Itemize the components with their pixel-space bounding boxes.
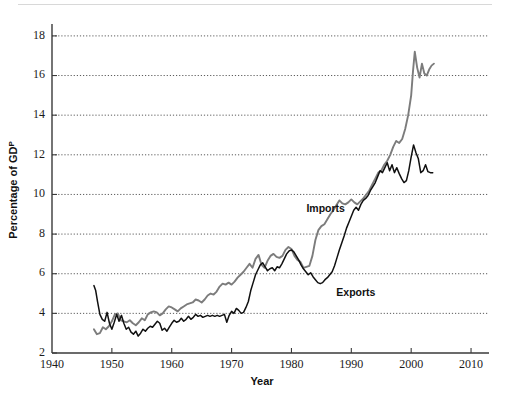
x-tick-label-2010: 2010	[459, 357, 483, 371]
annotation-exports: Exports	[336, 286, 375, 298]
series-line-exports	[94, 145, 433, 336]
series-line-imports	[94, 52, 434, 334]
series-annotations: ImportsExports	[306, 202, 375, 297]
y-tick-group: 24681012141618	[33, 28, 57, 359]
x-tick-label-2000: 2000	[399, 357, 423, 371]
y-axis-title-superscript: P	[7, 141, 16, 147]
trade-percentage-gdp-chart: 24681012141618 1940195019601970198019902…	[0, 0, 510, 395]
x-tick-label-1940: 1940	[40, 357, 64, 371]
y-axis-title: Percentage of GDP	[7, 141, 19, 239]
y-tick-label-10: 10	[33, 186, 45, 200]
y-tick-label-8: 8	[39, 226, 45, 240]
y-tick-label-4: 4	[39, 305, 45, 319]
x-tick-label-1980: 1980	[279, 357, 303, 371]
gridlines-group	[52, 36, 489, 313]
chart-figure: 24681012141618 1940195019601970198019902…	[0, 0, 510, 395]
y-tick-label-14: 14	[33, 107, 45, 121]
y-tick-label-18: 18	[33, 28, 45, 42]
x-tick-group: 19401950196019701980199020002010	[40, 348, 483, 371]
annotation-imports: Imports	[306, 202, 345, 214]
x-tick-label-1950: 1950	[100, 357, 124, 371]
y-tick-label-16: 16	[33, 67, 45, 81]
y-axis-title-main: Percentage of GD	[7, 146, 19, 238]
x-tick-label-1960: 1960	[160, 357, 184, 371]
data-series-group	[94, 52, 434, 336]
x-tick-label-1970: 1970	[220, 357, 244, 371]
x-axis-title: Year	[250, 375, 274, 387]
y-tick-label-12: 12	[33, 147, 45, 161]
y-tick-label-6: 6	[39, 265, 45, 279]
x-tick-label-1990: 1990	[339, 357, 363, 371]
